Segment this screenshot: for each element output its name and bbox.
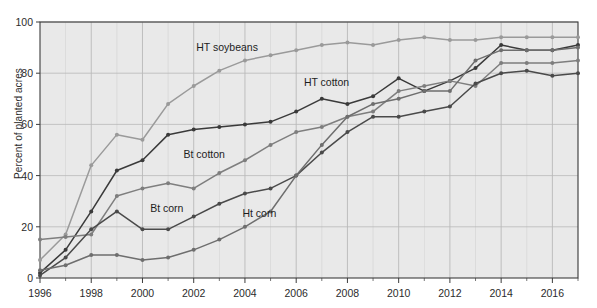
y-axis-tick-label: 40 (0, 170, 33, 182)
data-point (64, 263, 68, 267)
data-point (243, 122, 247, 126)
series-label-bt-cotton: Bt cotton (183, 148, 224, 160)
data-point (448, 104, 452, 108)
series-label-ht-soybeans: HT soybeans (196, 41, 258, 53)
data-point (140, 158, 144, 162)
data-point (269, 186, 273, 190)
data-point (115, 168, 119, 172)
data-point (294, 174, 298, 178)
data-point (550, 61, 554, 65)
plot-background (40, 22, 578, 278)
data-point (422, 89, 426, 93)
data-point (576, 46, 580, 50)
data-point (320, 97, 324, 101)
data-point (38, 268, 42, 272)
data-point (576, 35, 580, 39)
data-point (38, 273, 42, 277)
data-point (294, 130, 298, 134)
data-point (550, 74, 554, 78)
data-point (576, 71, 580, 75)
data-point (499, 43, 503, 47)
data-point (166, 102, 170, 106)
data-point (89, 227, 93, 231)
data-point (422, 110, 426, 114)
x-axis-tick-label: 2010 (387, 287, 410, 299)
y-axis-tick-label: 80 (0, 67, 33, 79)
x-axis-tick-label: 2014 (489, 287, 512, 299)
data-point (166, 227, 170, 231)
x-axis-tick-label: 2006 (285, 287, 308, 299)
data-point (499, 71, 503, 75)
data-point (217, 171, 221, 175)
data-point (217, 202, 221, 206)
data-point (397, 89, 401, 93)
data-point (115, 133, 119, 137)
x-axis-tick-label: 2012 (438, 287, 461, 299)
data-point (474, 38, 478, 42)
y-axis-tick-label: 20 (0, 221, 33, 233)
data-point (345, 40, 349, 44)
data-point (192, 215, 196, 219)
data-point (243, 58, 247, 62)
data-point (474, 58, 478, 62)
data-point (192, 248, 196, 252)
data-point (166, 256, 170, 260)
data-point (269, 53, 273, 57)
data-point (243, 158, 247, 162)
data-point (140, 138, 144, 142)
data-point (89, 209, 93, 213)
data-point (397, 76, 401, 80)
x-axis-tick-label: 1996 (28, 287, 51, 299)
data-point (269, 120, 273, 124)
data-point (89, 232, 93, 236)
data-point (525, 48, 529, 52)
data-point (371, 110, 375, 114)
data-point (269, 143, 273, 147)
data-point (525, 69, 529, 73)
data-point (217, 238, 221, 242)
data-point (64, 248, 68, 252)
data-point (371, 102, 375, 106)
data-point (525, 61, 529, 65)
data-point (115, 253, 119, 257)
y-axis-tick-label: 100 (0, 16, 33, 28)
y-axis-tick-label: 60 (0, 118, 33, 130)
data-point (499, 35, 503, 39)
data-point (422, 35, 426, 39)
data-point (422, 84, 426, 88)
data-point (474, 66, 478, 70)
data-point (371, 115, 375, 119)
data-point (448, 79, 452, 83)
data-point (320, 125, 324, 129)
data-point (192, 128, 196, 132)
data-point (192, 186, 196, 190)
data-point (550, 35, 554, 39)
data-point (550, 48, 554, 52)
data-point (38, 258, 42, 262)
data-point (38, 238, 42, 242)
data-point (345, 115, 349, 119)
data-point (320, 143, 324, 147)
data-point (64, 256, 68, 260)
data-point (371, 43, 375, 47)
data-point (140, 186, 144, 190)
data-point (89, 163, 93, 167)
data-point (140, 227, 144, 231)
data-point (525, 35, 529, 39)
data-point (140, 258, 144, 262)
x-axis-tick-label: 1998 (80, 287, 103, 299)
data-point (192, 84, 196, 88)
data-point (320, 151, 324, 155)
data-point (474, 81, 478, 85)
data-point (371, 94, 375, 98)
data-point (115, 194, 119, 198)
data-point (64, 235, 68, 239)
chart-container: Percent of planted acres 020406080100 19… (0, 0, 597, 308)
data-point (499, 48, 503, 52)
data-point (243, 192, 247, 196)
data-point (345, 102, 349, 106)
y-axis-tick-label: 0 (0, 272, 33, 284)
x-axis-tick-label: 2008 (336, 287, 359, 299)
x-axis-tick-label: 2000 (131, 287, 154, 299)
data-point (243, 225, 247, 229)
